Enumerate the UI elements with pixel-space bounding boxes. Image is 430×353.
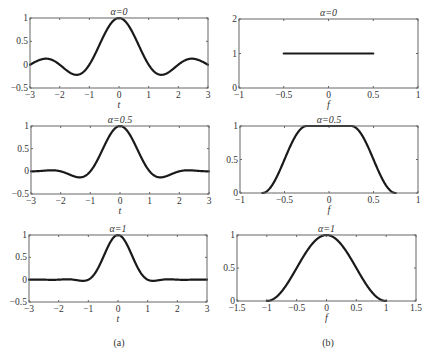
y-tick-label: 0 [232,83,237,93]
y-tick-label: 0.5 [226,155,238,165]
subplot-title: α=0.5 [317,114,342,125]
x-axis-label: f [325,312,329,323]
x-tick-label: −0.5 [275,90,292,100]
subplot-a2: −3−2−10123−0.500.51α=0.5t [12,114,212,216]
x-tick-label: 1 [145,304,150,314]
subplot-title: α=0 [320,7,337,18]
x-tick-label: −1 [85,196,95,206]
y-tick-label: 1 [230,230,235,240]
y-tick-label: 0 [23,60,28,70]
data-curve [30,18,208,75]
figure-canvas: −3−2−10123−0.500.51α=0t−1−0.500.51012α=0… [0,0,430,353]
x-tick-label: −1 [262,303,272,313]
x-tick-label: 0.5 [368,195,380,205]
subplot-title: α=0.5 [108,114,133,125]
axes-frame [240,126,418,193]
y-tick-label: −0.5 [12,189,29,199]
subplot-title: α=1 [110,223,127,234]
x-tick-label: 1 [147,196,152,206]
x-tick-label: 1 [416,195,421,205]
subplot-a3: −3−2−10123−0.500.51α=1t [10,223,210,324]
x-tick-label: 1 [384,303,389,313]
axes-frame [30,18,208,88]
y-tick-label: 1 [233,121,238,131]
y-tick-label: 0.5 [16,36,28,46]
y-tick-label: 1 [232,49,237,59]
x-tick-label: 2 [176,90,181,100]
y-tick-label: 0.5 [223,263,235,273]
y-tick-label: 1 [23,13,28,23]
x-tick-label: −1 [83,304,93,314]
x-tick-label: 0.5 [367,90,379,100]
subplots-group: −3−2−10123−0.500.51α=0t−1−0.500.51012α=0… [10,6,422,324]
x-tick-label: 2 [177,196,182,206]
y-tick-label: 1 [22,230,27,240]
y-tick-label: 0.5 [15,252,27,262]
data-curve [31,126,209,177]
subplot-title: α=0 [111,6,128,17]
x-axis-label: t [118,99,121,110]
x-tick-label: 1 [146,90,151,100]
axes-frame [31,126,209,194]
x-tick-label: 2 [175,304,180,314]
data-curve [29,235,207,281]
x-tick-label: 3 [206,90,211,100]
axes-frame [29,235,207,302]
caption-a: (a) [113,337,124,349]
y-tick-label: 0 [24,166,29,176]
x-axis-label: t [117,313,120,324]
x-tick-label: −2 [56,196,66,206]
x-tick-label: −0.5 [276,195,293,205]
x-tick-label: 3 [207,196,212,206]
x-tick-label: −2 [54,304,64,314]
y-tick-label: 1 [24,121,29,131]
x-tick-label: 1.5 [410,303,422,313]
y-tick-label: 0 [233,188,238,198]
caption-b: (b) [322,337,334,349]
subplot-b1: −1−0.500.51012α=0f [232,7,420,110]
x-axis-label: f [327,99,331,110]
x-axis-label: t [119,205,122,216]
y-tick-label: 0 [230,296,235,306]
x-tick-label: −0.5 [288,303,305,313]
y-tick-label: −0.5 [11,83,28,93]
data-curve [262,126,396,193]
x-tick-label: 1 [416,90,421,100]
axes-frame [237,235,416,301]
y-tick-label: 0.5 [17,144,29,154]
y-tick-label: 0 [22,275,27,285]
x-tick-label: −1 [84,90,94,100]
data-curve [267,235,386,301]
subplot-a1: −3−2−10123−0.500.51α=0t [11,6,211,110]
subplot-b2: −1−0.500.5100.51α=0.5f [226,114,421,215]
x-tick-label: 0.5 [350,303,362,313]
x-tick-label: −2 [55,90,65,100]
x-tick-label: 3 [205,304,210,314]
y-tick-label: −0.5 [10,297,27,307]
y-tick-label: 2 [232,14,237,24]
subplot-title: α=1 [318,223,335,234]
subplot-b3: −1.5−1−0.500.511.500.51α=1f [223,223,422,323]
x-axis-label: f [328,204,332,215]
